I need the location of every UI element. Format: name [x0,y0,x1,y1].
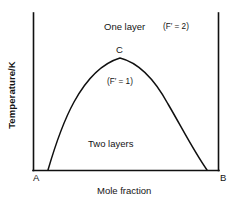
x-axis-label: Mole fraction [97,186,151,196]
miscibility-dome-curve [48,58,207,170]
degrees-of-freedom-two-label: (F′ = 2) [163,23,189,31]
y-axis-label-text: Temperature/K [7,61,17,129]
component-a-label: A [33,173,39,183]
phase-diagram-figure: Temperature/K Mole fraction One layer (F… [0,0,229,205]
critical-point-label: C [116,45,123,55]
two-layers-region-label: Two layers [88,139,133,149]
y-axis-label: Temperature/K [5,52,19,138]
one-layer-region-label: One layer [104,22,145,32]
component-b-label: B [220,173,226,183]
degrees-of-freedom-one-label: (F′ = 1) [107,78,133,86]
